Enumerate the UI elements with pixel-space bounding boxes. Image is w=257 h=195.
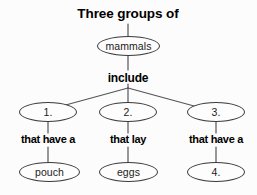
link-label-branch-2: that lay bbox=[93, 134, 163, 145]
link-label-branch-3: that have a bbox=[171, 134, 257, 145]
node-branch-2[interactable]: 2. bbox=[99, 102, 157, 122]
diagram-title: Three groups of bbox=[44, 7, 212, 21]
node-branch-3[interactable]: 3. bbox=[187, 102, 245, 122]
node-child-eggs[interactable]: eggs bbox=[99, 162, 158, 182]
node-child-4[interactable]: 4. bbox=[187, 162, 245, 182]
node-branch-1[interactable]: 1. bbox=[19, 102, 77, 122]
link-label-branch-1: that have a bbox=[3, 134, 93, 145]
concept-map-diagram: Three groups of mammals include 1. 2. 3.… bbox=[0, 0, 257, 195]
node-child-pouch[interactable]: pouch bbox=[19, 162, 80, 182]
node-mammals[interactable]: mammals bbox=[97, 36, 160, 56]
link-label-include: include bbox=[88, 72, 168, 84]
